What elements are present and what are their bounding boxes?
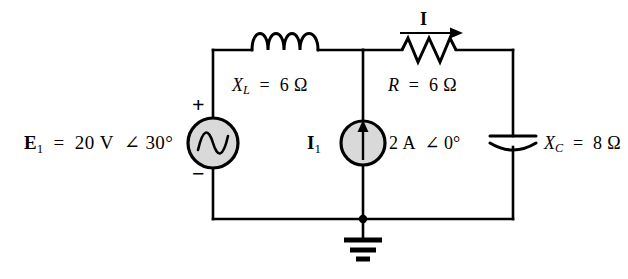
- resistor-symbol: R: [388, 75, 399, 95]
- ground-junction-dot: [359, 215, 367, 223]
- voltage-source-symbol: E: [24, 132, 37, 153]
- current-source-subscript: 1: [314, 141, 320, 156]
- capacitor-label: XC = 8 Ω: [544, 134, 621, 155]
- inductor-coils: [252, 34, 318, 51]
- voltage-source-plus-terminal: +: [192, 94, 205, 116]
- resistor-zigzag: [402, 38, 456, 62]
- current-source-label: I1: [307, 133, 321, 156]
- inductor-label: XL = 6 Ω: [232, 76, 308, 97]
- resistor-label: R = 6 Ω: [388, 76, 457, 94]
- inductor-subscript: L: [243, 83, 250, 97]
- voltage-source-minus-terminal: −: [192, 163, 205, 185]
- inductor-XL-symbol: [252, 34, 318, 51]
- branch-current-label: I: [420, 10, 427, 28]
- voltage-source-label: E1 = 20 V ∠ 30°: [24, 133, 173, 156]
- current-source-I1-symbol: [341, 120, 385, 165]
- capacitor-subscript: C: [555, 141, 563, 155]
- resistor-R-symbol: [402, 38, 456, 62]
- current-source-value-label: 2 A ∠ 0°: [389, 134, 460, 152]
- circuit-diagram: E1 = 20 V ∠ 30° + − XL = 6 Ω R = 6 Ω I I…: [0, 0, 628, 279]
- capacitor-symbol: X: [544, 133, 555, 153]
- current-arrow-head: [450, 28, 463, 39]
- inductor-symbol: X: [232, 75, 243, 95]
- branch-current-arrow: [400, 28, 463, 39]
